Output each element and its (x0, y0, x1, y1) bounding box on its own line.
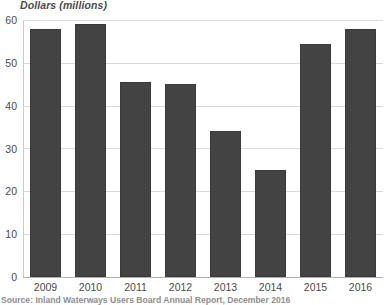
bar-slot (23, 20, 68, 277)
bar-slot (338, 20, 383, 277)
bar-slot (113, 20, 158, 277)
bar-2014[interactable] (255, 170, 286, 277)
x-axis-tick-label: 2012 (158, 279, 203, 295)
bar-2009[interactable] (30, 29, 61, 277)
bar-2012[interactable] (165, 84, 196, 277)
y-axis-tick-label: 10 (0, 229, 17, 240)
x-axis-tick-label: 2011 (113, 279, 158, 295)
x-axis-tick-labels: 2009 2010 2011 2012 2013 2014 2015 2016 (23, 279, 383, 295)
source-note: Source: Inland Waterways Users Board Ann… (1, 295, 392, 305)
y-axis-tick-label: 0 (0, 272, 17, 283)
bar-slot (203, 20, 248, 277)
chart-axis-title: Dollars (millions) (20, 0, 107, 11)
y-axis-tick-label: 50 (0, 58, 17, 69)
x-axis-tick-label: 2010 (68, 279, 113, 295)
bar-slot (68, 20, 113, 277)
bars-layer (23, 20, 383, 277)
bar-2015[interactable] (300, 44, 331, 277)
y-axis-tick-label: 20 (0, 186, 17, 197)
x-axis-tick-label: 2009 (23, 279, 68, 295)
bar-slot (158, 20, 203, 277)
bar-slot (248, 20, 293, 277)
bar-2013[interactable] (210, 131, 241, 277)
bar-2016[interactable] (345, 29, 376, 277)
x-axis-line (23, 277, 383, 278)
y-axis-tick-label: 40 (0, 100, 17, 111)
bar-chart-figure: Dollars (millions) 60 50 40 30 20 10 0 2… (0, 0, 392, 305)
x-axis-tick-label: 2013 (203, 279, 248, 295)
x-axis-tick-label: 2015 (293, 279, 338, 295)
y-axis-tick-label: 60 (0, 15, 17, 26)
x-axis-tick-label: 2014 (248, 279, 293, 295)
x-axis-tick-label: 2016 (338, 279, 383, 295)
bar-2010[interactable] (75, 24, 106, 277)
plot-area (23, 20, 383, 277)
y-axis-tick-labels: 60 50 40 30 20 10 0 (0, 20, 17, 277)
bar-slot (293, 20, 338, 277)
y-axis-tick-label: 30 (0, 143, 17, 154)
bar-2011[interactable] (120, 82, 151, 277)
